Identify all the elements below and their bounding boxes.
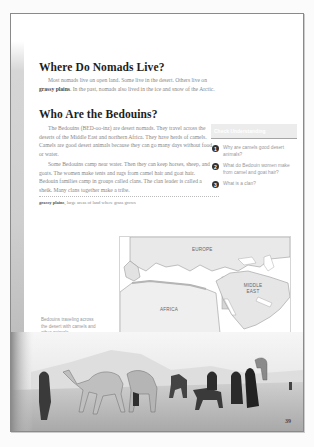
heading-who-are-the-bedouins: Who Are the Bedouins? (39, 108, 158, 120)
number-badge-icon: 3 (212, 181, 219, 188)
glossary-divider (39, 196, 219, 197)
questions-box-header: Check Understanding (211, 124, 297, 139)
page-number: 39 (285, 418, 291, 424)
map-label-africa: AFRICA (160, 307, 178, 313)
paragraph-bedouins-1: The Bedouins (BED-oo-inz) are desert nom… (39, 124, 215, 159)
paragraph-nomads: Most nomads live on open land. Some live… (39, 76, 215, 93)
question-text: What is a clan? (223, 181, 256, 188)
map-label-middle-east: MIDDLE EAST (242, 283, 264, 295)
bedouin-caravan-photo: 39 (11, 332, 303, 431)
question-text: What do Bedouin women make from camel an… (223, 163, 297, 176)
glossary-definition: large areas of land where grass grows (67, 200, 136, 205)
questions-list: 1 Why are camels good desert animals? 2 … (211, 145, 297, 188)
glossary-term: grassy plains (39, 200, 64, 205)
photo-edge-gradient (11, 41, 24, 341)
paragraph-text: . In the past, nomads also lived in the … (70, 86, 215, 92)
number-badge-icon: 2 (212, 163, 219, 170)
question-item: 3 What is a clan? (211, 181, 297, 188)
glossary-entry: grassy plains, large areas of land where… (39, 200, 136, 205)
glossary-term-highlight: grassy plains (39, 86, 70, 92)
question-item: 1 Why are camels good desert animals? (211, 145, 297, 158)
paragraph-text: Most nomads live on open land. Some live… (48, 77, 207, 83)
question-text: Why are camels good desert animals? (223, 145, 297, 158)
number-badge-icon: 1 (212, 145, 219, 152)
paragraph-bedouins-2: Some Bedouins camp near water. Then they… (39, 160, 215, 195)
region-map: EUROPE MIDDLE EAST AFRICA (119, 236, 291, 334)
textbook-page: Where Do Nomads Live? Most nomads live o… (10, 13, 304, 432)
photo-illustration-icon (11, 332, 303, 431)
question-item: 2 What do Bedouin women make from camel … (211, 163, 297, 176)
heading-where-do-nomads-live: Where Do Nomads Live? (39, 61, 165, 73)
questions-box: Check Understanding 1 Why are camels goo… (211, 124, 297, 193)
map-label-europe: EUROPE (192, 247, 213, 253)
